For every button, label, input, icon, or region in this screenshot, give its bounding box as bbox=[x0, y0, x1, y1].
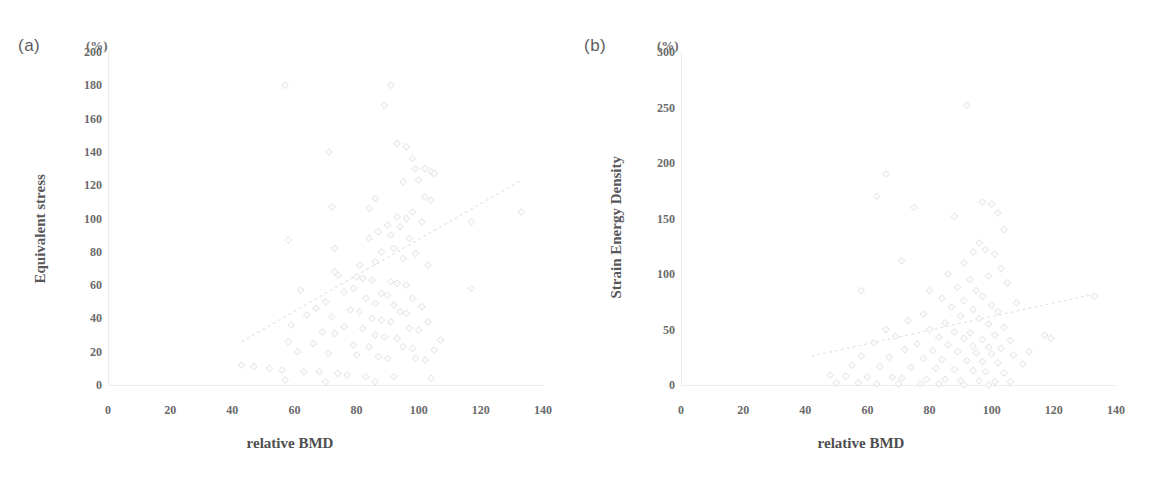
data-point-marker bbox=[985, 273, 992, 280]
data-point-marker bbox=[422, 165, 429, 172]
trend-line bbox=[812, 294, 1095, 356]
data-point-marker bbox=[394, 213, 401, 220]
data-point-marker bbox=[369, 315, 376, 322]
data-point-marker bbox=[353, 352, 360, 359]
data-point-marker bbox=[963, 357, 970, 364]
data-point-marker bbox=[285, 237, 292, 244]
data-point-marker bbox=[976, 377, 983, 384]
data-point-marker bbox=[381, 333, 388, 340]
data-point-marker bbox=[403, 215, 410, 222]
data-point-marker bbox=[1041, 332, 1048, 339]
data-point-marker bbox=[998, 345, 1005, 352]
data-point-marker bbox=[988, 201, 995, 208]
data-point-marker bbox=[1001, 324, 1008, 331]
data-point-marker bbox=[982, 368, 989, 375]
data-point-marker bbox=[319, 328, 326, 335]
data-point-marker bbox=[415, 327, 422, 334]
data-point-marker bbox=[331, 330, 338, 337]
data-point-marker bbox=[948, 304, 955, 311]
data-point-marker bbox=[945, 342, 952, 349]
data-point-marker bbox=[973, 349, 980, 356]
data-point-marker bbox=[998, 265, 1005, 272]
data-point-marker bbox=[356, 262, 363, 269]
data-point-marker bbox=[892, 333, 899, 340]
data-point-marker bbox=[378, 290, 385, 297]
data-point-marker bbox=[929, 347, 936, 354]
data-point-marker bbox=[1007, 337, 1014, 344]
data-point-marker bbox=[300, 368, 307, 375]
data-point-marker bbox=[960, 260, 967, 267]
data-point-marker bbox=[282, 82, 289, 89]
data-point-marker bbox=[911, 204, 918, 211]
data-point-marker bbox=[350, 285, 357, 292]
data-point-marker bbox=[409, 295, 416, 302]
data-point-marker bbox=[409, 155, 416, 162]
data-point-marker bbox=[1047, 335, 1054, 342]
data-point-marker bbox=[375, 353, 382, 360]
data-point-marker bbox=[313, 305, 320, 312]
data-point-marker bbox=[341, 288, 348, 295]
data-point-marker bbox=[908, 364, 915, 371]
data-point-marker bbox=[954, 348, 961, 355]
data-point-marker bbox=[425, 262, 432, 269]
data-point-marker bbox=[384, 292, 391, 299]
data-point-marker bbox=[387, 232, 394, 239]
data-point-marker bbox=[926, 326, 933, 333]
data-point-marker bbox=[970, 367, 977, 374]
data-point-marker bbox=[991, 251, 998, 258]
data-point-marker bbox=[325, 149, 332, 156]
data-point-marker bbox=[1004, 279, 1011, 286]
data-point-marker bbox=[406, 235, 413, 242]
data-point-marker bbox=[926, 287, 933, 294]
data-point-marker bbox=[297, 287, 304, 294]
data-point-marker bbox=[282, 377, 289, 384]
data-point-marker bbox=[988, 351, 995, 358]
data-point-marker bbox=[883, 171, 890, 178]
data-point-marker bbox=[1007, 378, 1014, 385]
data-point-marker bbox=[960, 335, 967, 342]
data-point-marker bbox=[394, 280, 401, 287]
data-point-marker bbox=[353, 273, 360, 280]
data-point-marker bbox=[1026, 348, 1033, 355]
data-point-marker bbox=[362, 295, 369, 302]
data-point-marker bbox=[403, 310, 410, 317]
data-point-marker bbox=[858, 353, 865, 360]
data-point-marker bbox=[985, 344, 992, 351]
data-point-marker bbox=[437, 337, 444, 344]
data-point-marker bbox=[942, 376, 949, 383]
data-point-marker bbox=[935, 380, 942, 387]
data-point-marker bbox=[335, 370, 342, 377]
data-point-marker bbox=[979, 358, 986, 365]
data-point-marker bbox=[310, 340, 317, 347]
data-point-marker bbox=[400, 178, 407, 185]
data-point-marker bbox=[403, 144, 410, 151]
data-point-marker bbox=[266, 365, 273, 372]
data-point-marker bbox=[418, 303, 425, 310]
data-point-marker bbox=[920, 311, 927, 318]
data-point-marker bbox=[979, 293, 986, 300]
data-point-marker bbox=[390, 373, 397, 380]
data-point-marker bbox=[842, 373, 849, 380]
data-point-marker bbox=[390, 302, 397, 309]
data-point-marker bbox=[415, 177, 422, 184]
data-point-marker bbox=[976, 240, 983, 247]
data-point-marker bbox=[979, 336, 986, 343]
data-point-marker bbox=[898, 257, 905, 264]
data-point-marker bbox=[1010, 352, 1017, 359]
data-point-marker bbox=[960, 297, 967, 304]
data-point-marker bbox=[372, 195, 379, 202]
data-point-marker bbox=[378, 248, 385, 255]
panel-b: (b) (%) Strain Energy Density relative B… bbox=[576, 0, 1152, 479]
data-point-marker bbox=[951, 213, 958, 220]
data-point-marker bbox=[285, 338, 292, 345]
data-point-marker bbox=[904, 317, 911, 324]
data-point-marker bbox=[920, 355, 927, 362]
data-point-marker bbox=[384, 222, 391, 229]
data-point-marker bbox=[356, 308, 363, 315]
data-point-marker bbox=[991, 378, 998, 385]
data-point-marker bbox=[347, 307, 354, 314]
data-point-marker bbox=[995, 359, 1002, 366]
data-point-marker bbox=[350, 342, 357, 349]
data-point-marker bbox=[967, 329, 974, 336]
data-point-marker bbox=[328, 203, 335, 210]
